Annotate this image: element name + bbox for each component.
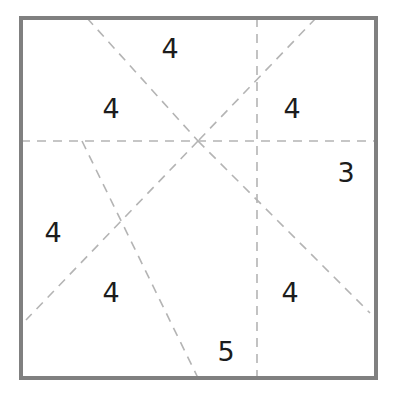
figure-canvas: 44434445	[0, 0, 396, 398]
outer-square-border	[21, 18, 376, 378]
label-left: 4	[44, 219, 61, 246]
label-upper-left: 4	[102, 95, 119, 122]
label-bottom: 5	[217, 338, 234, 365]
label-right: 3	[337, 159, 354, 186]
label-lower-right: 4	[281, 279, 298, 306]
label-lower-left: 4	[102, 279, 119, 306]
label-top-center: 4	[161, 35, 178, 62]
figure-svg	[0, 0, 396, 398]
dashed-lines-group	[21, 18, 376, 378]
label-upper-right: 4	[283, 95, 300, 122]
steep-diagonal-midline-to-bottom	[82, 141, 198, 378]
